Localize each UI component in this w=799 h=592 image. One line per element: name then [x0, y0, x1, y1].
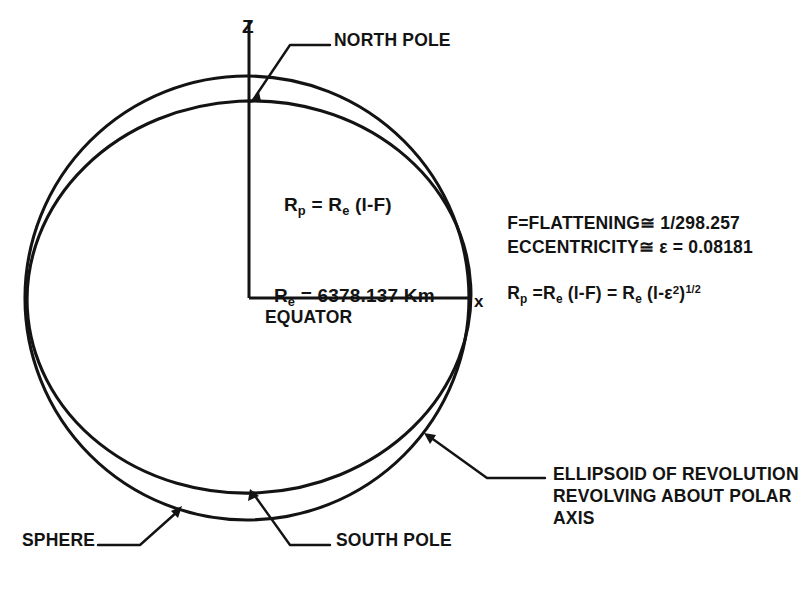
eccentricity-equals: =: [668, 237, 689, 257]
rp-tail: (l-F): [350, 194, 392, 215]
rp-base: R: [284, 194, 298, 215]
re-base: R: [274, 285, 288, 306]
south-pole-label: SOUTH POLE: [336, 530, 452, 551]
eccentricity-value: 0.08181: [688, 237, 753, 257]
north-pole-leader: [253, 45, 330, 100]
polar-radius-formula: Rp = Re (l-F): [262, 172, 392, 241]
eccentricity-symbol: ε: [659, 237, 668, 257]
ellipsoid-arrowhead: [424, 433, 436, 444]
comb-equals-1: =: [528, 283, 543, 303]
eccentricity-name: ECCENTRICITY: [507, 237, 639, 257]
ellipsoid-label-line3: AXIS: [553, 508, 595, 529]
re-value: 6378.137: [318, 285, 399, 306]
comb-re1-base: R: [543, 283, 556, 303]
ellipsoid-leader: [430, 437, 545, 478]
comb-epsilon-symbol: ε: [664, 283, 673, 303]
comb-open-paren: (l-: [642, 283, 664, 303]
comb-rp-base: R: [507, 283, 520, 303]
z-axis-label: Z: [242, 16, 254, 38]
rp-subscript: p: [298, 203, 306, 218]
re-subscript: e: [342, 203, 349, 218]
sphere-label: SPHERE: [22, 530, 95, 551]
comb-re2-subscript: e: [635, 291, 642, 305]
re-equals: =: [295, 285, 317, 306]
combined-radius-formula: Rp =Re (l-F) = Re (l-ε2)1/2: [487, 262, 701, 326]
ellipsoid-label-line2: REVOLVING ABOUT POLAR: [553, 486, 792, 507]
ellipsoid-label-line1: ELLIPSOID OF REVOLUTION: [553, 464, 799, 485]
comb-re2-base: R: [622, 283, 635, 303]
comb-re1-subscript: e: [556, 291, 563, 305]
sphere-leader: [98, 512, 177, 545]
equatorial-radius-formula: Re = 6378.137 Km: [252, 263, 435, 332]
re-base: R: [328, 194, 342, 215]
comb-term-1: (l-F) =: [563, 283, 623, 303]
eccentricity-approx-sign: ≅: [639, 237, 654, 257]
x-axis-label: x: [474, 292, 484, 312]
north-pole-label: NORTH POLE: [334, 30, 451, 51]
rp-equals: =: [306, 194, 328, 215]
comb-rp-subscript: p: [520, 291, 527, 305]
re-unit: Km: [404, 285, 435, 306]
comb-half-exponent: 1/2: [685, 283, 701, 295]
